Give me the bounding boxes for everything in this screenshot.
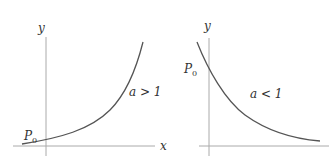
- left-curve-label: a > 1: [129, 85, 161, 99]
- right-curve-label: a < 1: [250, 87, 282, 101]
- growth-curve: [22, 42, 143, 144]
- left-x-label: x: [160, 139, 167, 153]
- diagram: y x P0 a > 1 y P0 a < 1: [0, 0, 329, 166]
- left-y-label: y: [37, 21, 45, 35]
- right-p0-label: P0: [183, 62, 197, 78]
- left-plot: y x P0 a > 1: [13, 21, 167, 156]
- right-y-label: y: [203, 19, 211, 33]
- left-p0-label: P0: [23, 129, 37, 145]
- right-plot: y P0 a < 1: [183, 19, 329, 156]
